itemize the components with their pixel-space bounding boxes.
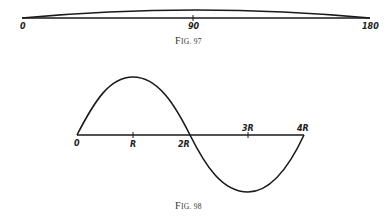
caption-rest: IG. 98 — [181, 202, 202, 211]
fig98-label-2R: 2R — [178, 140, 190, 149]
figure-98: 0 R 2R 3R 4R FIG. 98 — [74, 77, 309, 211]
fig98-label-4R: 4R — [296, 124, 309, 133]
fig97-label-180: 180 — [362, 22, 379, 31]
fig97-label-90: 90 — [188, 22, 200, 31]
figure-97: 0 90 180 FIG. 97 — [20, 10, 379, 46]
fig98-caption: FIG. 98 — [175, 200, 202, 211]
fig98-label-R: R — [130, 140, 136, 149]
fig98-label-3R: 3R — [242, 124, 254, 133]
figures-canvas: 0 90 180 FIG. 97 0 R 2R 3R 4R FIG. 98 — [0, 0, 392, 216]
fig97-caption: FIG. 97 — [175, 35, 202, 46]
fig97-label-0: 0 — [20, 22, 26, 31]
fig98-label-0: 0 — [74, 139, 80, 148]
caption-rest: IG. 97 — [181, 37, 202, 46]
fig97-arch-curve — [22, 10, 370, 18]
